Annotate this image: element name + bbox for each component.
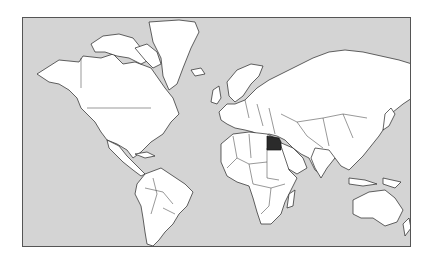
- iceland: [191, 68, 205, 76]
- great-britain: [211, 86, 221, 104]
- egypt-highlight: [267, 136, 281, 150]
- australia: [353, 190, 403, 226]
- world-map-svg: [23, 18, 411, 247]
- world-map: [22, 17, 411, 247]
- south-america: [135, 168, 193, 246]
- indonesia: [349, 178, 377, 186]
- new-guinea: [383, 178, 401, 188]
- new-zealand: [403, 218, 411, 236]
